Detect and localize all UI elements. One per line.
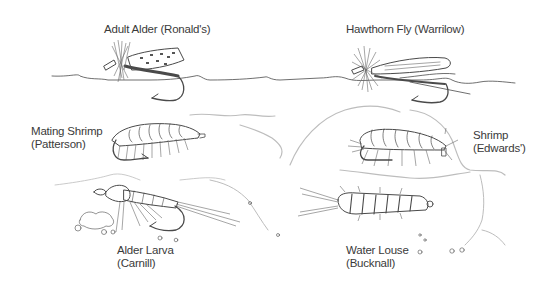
alder-larva-label: Alder Larva (Carnill) <box>117 244 174 270</box>
shrimp-label: Shrimp (Edwards') <box>473 129 526 155</box>
mating-shrimp-drawing <box>112 124 205 160</box>
alder-larva-name: Alder Larva <box>117 244 174 257</box>
adult-alder-name: Adult Alder (Ronald's) <box>104 23 210 36</box>
water-louse-label: Water Louse (Bucknall) <box>346 244 409 270</box>
water-louse-tyer: (Bucknall) <box>346 257 409 270</box>
hawthorn-fly-label: Hawthorn Fly (Warrilow) <box>346 23 464 36</box>
adult-alder-fly-drawing <box>104 40 184 101</box>
adult-alder-label: Adult Alder (Ronald's) <box>104 23 210 36</box>
alder-larva-drawing <box>94 185 240 232</box>
water-louse-name: Water Louse <box>346 244 409 257</box>
hawthorn-fly-name: Hawthorn Fly (Warrilow) <box>346 23 464 36</box>
shrimp-name: Shrimp <box>473 129 526 142</box>
mating-shrimp-tyer: (Patterson) <box>31 138 103 151</box>
hawthorn-fly-drawing <box>352 46 470 103</box>
alder-larva-tyer: (Carnill) <box>117 257 174 270</box>
shrimp-tyer: (Edwards') <box>473 142 526 155</box>
underwater-weed <box>55 106 505 254</box>
water-louse-drawing <box>298 186 433 221</box>
shrimp-drawing <box>348 128 458 166</box>
mating-shrimp-label: Mating Shrimp (Patterson) <box>31 125 103 151</box>
mating-shrimp-name: Mating Shrimp <box>31 125 103 138</box>
